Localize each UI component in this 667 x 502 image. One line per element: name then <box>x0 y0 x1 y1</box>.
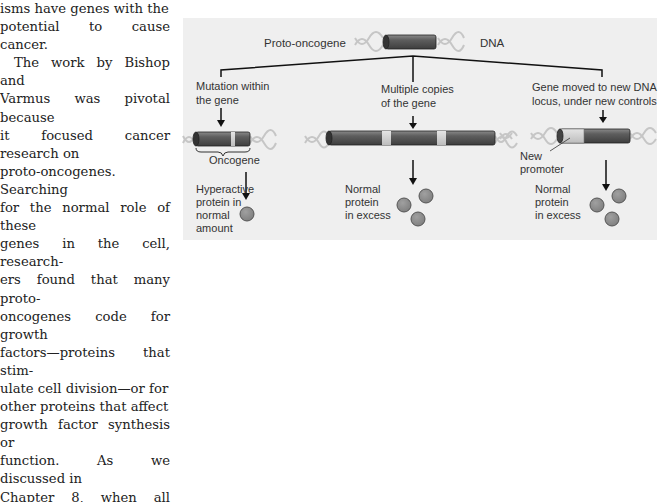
dna-label: DNA <box>480 36 504 50</box>
text-line: growth factor synthesis or <box>0 416 170 452</box>
result-normal-protein-excess: Normal protein in excess <box>535 183 581 222</box>
text-line: Chapter 8, when all these <box>0 489 170 502</box>
text-line: ulate cell division—or for <box>0 380 170 398</box>
branch-lines <box>221 56 602 82</box>
result-normal-protein-excess: Normal protein in excess <box>345 183 391 222</box>
text-line: function. As we discussed in <box>0 452 170 488</box>
oncogene-label: Oncogene <box>209 153 260 167</box>
proto-oncogene-icon <box>383 35 436 49</box>
text-line: other proteins that affect <box>0 398 170 416</box>
arrow-icon <box>602 160 610 191</box>
arrow-icon <box>217 108 225 127</box>
oncogene-icon <box>193 132 250 146</box>
branch-title-gene-moved: Gene moved to new DNA locus, under new c… <box>532 80 657 108</box>
gene-copies-icon <box>326 131 495 145</box>
arrow-icon <box>599 110 607 123</box>
proto-oncogene-label: Proto-oncogene <box>264 36 346 50</box>
arrow-icon <box>409 160 417 185</box>
branch-title-multiple-copies: Multiple copies of the gene <box>381 82 454 110</box>
arrow-icon <box>409 116 417 129</box>
relocated-gene-icon <box>557 129 630 143</box>
new-promoter-label: New promoter <box>520 150 564 176</box>
text-line: factors—proteins that stim- <box>0 344 170 380</box>
protein-group-icon <box>590 189 626 226</box>
text-line: oncogenes code for growth <box>0 308 170 344</box>
text-line: ers found that many proto- <box>0 271 170 307</box>
branch-title-mutation: Mutation within the gene <box>196 79 269 107</box>
protein-group-icon <box>397 189 433 226</box>
result-hyperactive-protein: Hyperactive protein in normal amount <box>196 183 254 235</box>
